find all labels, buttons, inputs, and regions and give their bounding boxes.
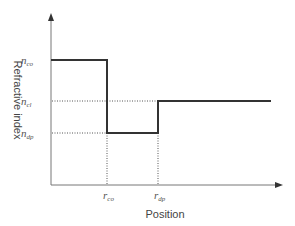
r-dp-label: rdp: [154, 189, 166, 203]
y-axis-arrow-icon: [48, 13, 54, 21]
refractive-index-diagram: nco ncl ndp rco rdp Position Refractive …: [0, 0, 295, 226]
r-co-label: rco: [103, 189, 114, 203]
profile-line: [51, 60, 271, 133]
x-axis-arrow-icon: [275, 182, 283, 188]
y-axis-title: Refractive index: [12, 61, 24, 140]
x-axis-title: Position: [145, 208, 184, 220]
